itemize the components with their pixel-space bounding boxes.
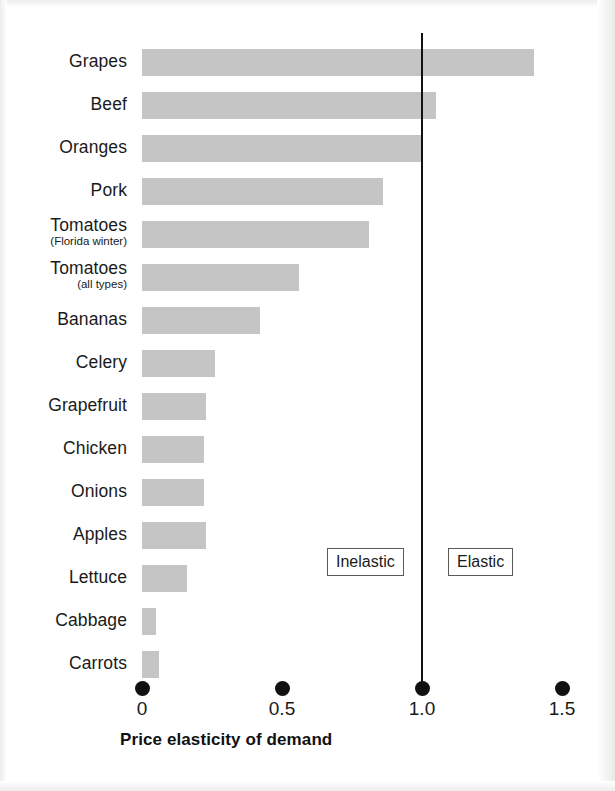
chart-page: GrapesBeefOrangesPorkTomatoes(Florida wi…	[0, 0, 615, 791]
bar-row: Oranges	[0, 126, 615, 169]
bar-chart-plot-area: GrapesBeefOrangesPorkTomatoes(Florida wi…	[0, 0, 615, 791]
axis-tick-dot	[415, 681, 430, 696]
bar-category-label: Bananas	[0, 310, 127, 329]
bar-category-name: Grapes	[0, 52, 127, 71]
axis-tick-label: 0.5	[242, 698, 322, 720]
bar-category-name: Cabbage	[0, 611, 127, 630]
bar	[142, 221, 369, 248]
bar-category-label: Chicken	[0, 439, 127, 458]
annotation-inelastic: Inelastic	[327, 548, 404, 576]
bar-row: Lettuce	[0, 556, 615, 599]
bar-row: Beef	[0, 83, 615, 126]
bar	[142, 49, 534, 76]
bar-category-name: Tomatoes	[0, 216, 127, 235]
unit-elasticity-reference-line	[421, 33, 423, 688]
bar	[142, 436, 204, 463]
bar	[142, 264, 299, 291]
bar-row: Cabbage	[0, 599, 615, 642]
bar-category-name: Pork	[0, 181, 127, 200]
bar-row: Bananas	[0, 298, 615, 341]
bar-category-label: Cabbage	[0, 611, 127, 630]
bar	[142, 307, 260, 334]
axis-tick-label: 1.0	[382, 698, 462, 720]
bar-category-label: Grapes	[0, 52, 127, 71]
bar-category-label: Tomatoes(Florida winter)	[0, 216, 127, 248]
bar	[142, 522, 206, 549]
bar-category-sublabel: (Florida winter)	[0, 235, 127, 248]
bar-category-name: Carrots	[0, 654, 127, 673]
bar-row: Grapes	[0, 40, 615, 83]
bar-category-sublabel: (all types)	[0, 278, 127, 291]
bar-row: Apples	[0, 513, 615, 556]
bar-category-label: Grapefruit	[0, 396, 127, 415]
axis-tick-dot	[135, 681, 150, 696]
bar-row: Tomatoes(Florida winter)	[0, 212, 615, 255]
bar-category-name: Lettuce	[0, 568, 127, 587]
bar-row: Tomatoes(all types)	[0, 255, 615, 298]
bar-category-name: Celery	[0, 353, 127, 372]
bar-category-name: Chicken	[0, 439, 127, 458]
bar-row: Chicken	[0, 427, 615, 470]
x-axis-title: Price elasticity of demand	[120, 730, 332, 750]
bar-row: Grapefruit	[0, 384, 615, 427]
bar-category-label: Lettuce	[0, 568, 127, 587]
bar-category-label: Celery	[0, 353, 127, 372]
bar-category-name: Bananas	[0, 310, 127, 329]
bar-category-label: Tomatoes(all types)	[0, 259, 127, 291]
bar-category-label: Beef	[0, 95, 127, 114]
bar-category-label: Carrots	[0, 654, 127, 673]
bar-row: Pork	[0, 169, 615, 212]
bar	[142, 393, 206, 420]
annotation-elastic: Elastic	[448, 548, 513, 576]
bar-row: Celery	[0, 341, 615, 384]
bar	[142, 608, 156, 635]
bar-category-name: Oranges	[0, 138, 127, 157]
bar	[142, 178, 383, 205]
bar-category-label: Oranges	[0, 138, 127, 157]
bar-category-name: Grapefruit	[0, 396, 127, 415]
axis-tick-dot	[555, 681, 570, 696]
axis-tick-dot	[275, 681, 290, 696]
bar	[142, 92, 436, 119]
bar-category-name: Tomatoes	[0, 259, 127, 278]
bar	[142, 350, 215, 377]
axis-tick-label: 0	[102, 698, 182, 720]
bar	[142, 135, 422, 162]
bar-category-name: Beef	[0, 95, 127, 114]
bar	[142, 565, 187, 592]
bar-category-label: Pork	[0, 181, 127, 200]
bar-category-label: Onions	[0, 482, 127, 501]
bar-category-label: Apples	[0, 525, 127, 544]
x-axis: 00.51.01.5	[0, 672, 615, 732]
axis-tick-label: 1.5	[522, 698, 602, 720]
bar-row: Onions	[0, 470, 615, 513]
bar	[142, 479, 204, 506]
bar-category-name: Onions	[0, 482, 127, 501]
bar-category-name: Apples	[0, 525, 127, 544]
